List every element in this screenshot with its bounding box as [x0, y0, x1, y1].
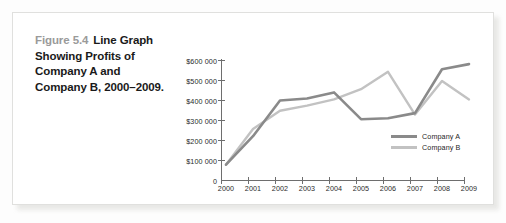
legend-swatch-icon: [391, 135, 417, 138]
x-tick-label: 2001: [238, 184, 268, 193]
legend-swatch-icon: [391, 146, 417, 149]
x-tick-label: 2005: [346, 184, 376, 193]
figure-screenshot: Figure 5.4Line Graph Showing Profits of …: [0, 0, 506, 223]
x-tick-label: 2007: [400, 184, 430, 193]
x-tick-label: 2004: [319, 184, 349, 193]
x-tick-label: 2008: [427, 184, 457, 193]
legend-label: Company A: [422, 132, 460, 141]
x-tick-label: 2003: [292, 184, 322, 193]
plot-area: [173, 31, 493, 201]
x-tick-label: 2002: [265, 184, 295, 193]
x-tick-label: 2009: [454, 184, 484, 193]
figure-caption: Figure 5.4Line Graph Showing Profits of …: [35, 33, 170, 95]
legend-label: Company B: [422, 143, 460, 152]
line-chart: $600 000 $500 000 $400 000 $300 000 $200…: [173, 31, 493, 201]
figure-card: Figure 5.4Line Graph Showing Profits of …: [12, 12, 494, 205]
x-tick-label: 2006: [373, 184, 403, 193]
chart-legend: Company A Company B: [391, 131, 460, 153]
legend-item-company-b: Company B: [391, 142, 460, 153]
figure-number: Figure 5.4: [35, 34, 88, 46]
legend-item-company-a: Company A: [391, 131, 460, 142]
x-tick-label: 2000: [211, 184, 241, 193]
